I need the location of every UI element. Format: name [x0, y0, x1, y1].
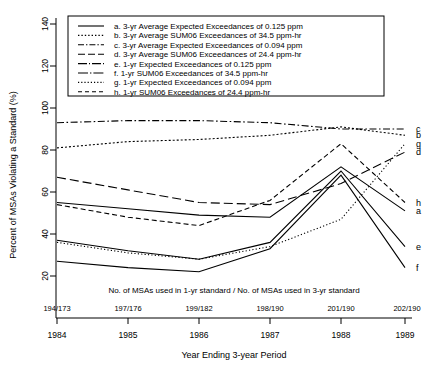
legend-label-a: a. 3-yr Average Expected Exceedances of … [114, 22, 303, 31]
y-tick-140: 140 [40, 17, 50, 31]
ratio-1989: 202/190 [393, 304, 420, 313]
y-tick-40: 40 [40, 229, 50, 239]
legend-label-d: d. 3-yr Average SUM06 Exceedances of 24.… [114, 50, 302, 59]
legend-label-c: c. 3-yr Average Expected Exceedances of … [114, 41, 303, 50]
x-tick-1984: 1984 [48, 330, 67, 340]
y-tick-100: 100 [40, 101, 50, 115]
x-tick-1986: 1986 [190, 330, 209, 340]
y-axis-title: Percent of MSAs Violating a Standard (%) [8, 91, 18, 258]
series-line-g [57, 144, 405, 260]
y-tick-labels: 140 120 100 80 60 40 20 [40, 17, 50, 281]
series-line-e [57, 171, 405, 259]
series-end-label-h: h [416, 198, 421, 208]
y-tick-120: 120 [40, 59, 50, 73]
y-tick-60: 60 [40, 187, 50, 197]
legend-label-b: b. 3-yr Average SUM06 Exceedances of 34.… [114, 31, 302, 40]
ratio-1984: 194/173 [43, 304, 70, 313]
ratio-1985: 197/176 [114, 304, 141, 313]
ratio-1986: 199/182 [185, 304, 212, 313]
legend-label-e: e. 1-yr Expected Exceedances of 0.125 pp… [114, 60, 272, 69]
series-line-f [57, 175, 405, 272]
curve-end-labels: abcdefgh [416, 124, 421, 273]
y-tick-20: 20 [40, 271, 50, 281]
legend: a. 3-yr Average Expected Exceedances of … [68, 16, 384, 97]
y-tick-80: 80 [40, 145, 50, 155]
msa-count-note: No. of MSAs used in 1-yr standard / No. … [108, 286, 359, 295]
series-end-label-e: e [416, 242, 421, 252]
data-curves [57, 121, 405, 272]
chart-figure: 140 120 100 80 60 40 20 Percent of MSAs … [0, 0, 438, 369]
series-line-b [57, 127, 405, 148]
x-tick-1985: 1985 [119, 330, 138, 340]
msa-ratio-labels: 194/173 197/176 199/182 198/190 201/190 … [43, 304, 420, 313]
y-tick-marks [50, 24, 56, 276]
series-line-d [57, 152, 405, 205]
series-end-label-g: g [416, 139, 421, 149]
legend-label-f: f. 1-yr SUM06 Exceedances of 34.5 ppm-hr [114, 69, 268, 78]
ratio-1988: 201/190 [327, 304, 354, 313]
x-tick-1987: 1987 [261, 330, 280, 340]
x-tick-labels: 1984 1985 1986 1987 1988 1989 [48, 330, 415, 340]
series-line-c [57, 121, 405, 129]
x-tick-1989: 1989 [396, 330, 415, 340]
series-end-label-c: c [416, 124, 421, 134]
series-end-label-f: f [416, 263, 419, 273]
x-axis-title: Year Ending 3-year Period [181, 350, 286, 360]
x-tick-marks [57, 318, 405, 324]
line-chart: 140 120 100 80 60 40 20 Percent of MSAs … [0, 0, 438, 369]
ratio-1987: 198/190 [256, 304, 283, 313]
legend-label-g: g. 1-yr Expected Exceedances of 0.094 pp… [114, 78, 272, 87]
x-tick-1988: 1988 [332, 330, 351, 340]
legend-label-h: h. 1-yr SUM06 Exceedances of 24.4 ppm-hr [114, 88, 270, 97]
